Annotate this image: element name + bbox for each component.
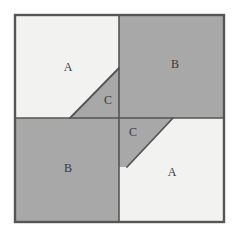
label-bottom-right-a: A	[168, 165, 177, 179]
square-dissection-figure: ACBBCA	[0, 0, 238, 232]
label-bottom-left-b: B	[64, 161, 72, 175]
figure-container: ACBBCA	[0, 0, 238, 232]
label-top-right-b: B	[171, 57, 179, 71]
label-top-left-a: A	[64, 60, 73, 74]
label-bottom-right-c: C	[129, 125, 137, 139]
label-top-left-c: C	[104, 93, 112, 107]
